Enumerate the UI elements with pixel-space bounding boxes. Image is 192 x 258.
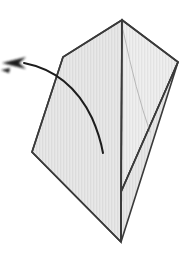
origami-diagram-figure: Origami fold step diagram xyxy=(0,0,192,258)
origami-diagram-canvas: Origami fold step diagram xyxy=(0,0,192,258)
